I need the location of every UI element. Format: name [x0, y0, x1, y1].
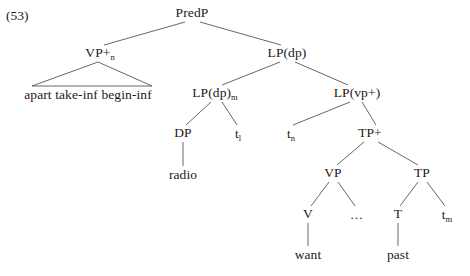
tree-node-lp_vp_plus: LP(vp+) — [334, 86, 381, 100]
tree-node-t: T — [394, 207, 402, 221]
tree-node-vp: VP — [324, 166, 341, 180]
tree-edge — [427, 182, 445, 206]
node-label: LP(dp) — [268, 45, 307, 60]
tree-edge — [104, 22, 185, 45]
tree-edge — [32, 62, 98, 86]
tree-edge — [98, 62, 152, 86]
tree-edge — [378, 142, 418, 165]
node-label: LP(dp) — [192, 85, 231, 100]
tree-edge — [362, 102, 376, 125]
node-subscript: n — [110, 52, 114, 62]
tree-edge — [186, 102, 211, 125]
node-label: LP(vp+) — [334, 85, 381, 100]
tree-edge — [295, 62, 348, 85]
node-label: VP — [324, 165, 341, 180]
node-label: PredP — [176, 5, 209, 20]
node-label: VP+ — [85, 45, 110, 60]
tree-node-trace_m: tm — [442, 208, 452, 221]
node-subscript: l — [239, 132, 241, 142]
tree-node-dp: DP — [174, 126, 191, 140]
tree-node-vp_terminal: apart take-inf begin-inf — [24, 88, 152, 102]
tree-node-trace_n: tn — [287, 127, 295, 140]
tree-edge — [338, 182, 355, 206]
node-label: DP — [174, 125, 191, 140]
tree-edge — [311, 182, 329, 206]
node-label: radio — [169, 167, 197, 182]
tree-node-lp_dp: LP(dp) — [268, 46, 307, 60]
tree-edge — [293, 102, 350, 125]
tree-node-v: V — [303, 207, 313, 221]
tree-node-want: want — [295, 248, 322, 262]
node-label: TP+ — [358, 125, 382, 140]
node-label: … — [350, 207, 364, 222]
tree-node-predp: PredP — [176, 6, 209, 20]
node-subscript: n — [291, 132, 295, 142]
tree-edge — [200, 22, 281, 45]
node-label: apart take-inf begin-inf — [24, 87, 152, 102]
tree-node-lp_dp_m: LP(dp)m — [192, 86, 237, 100]
node-subscript: m — [231, 92, 238, 102]
node-label: want — [295, 247, 322, 262]
node-subscript: m — [446, 213, 453, 223]
tree-edge — [337, 142, 364, 165]
tree-node-ellipsis: … — [350, 208, 364, 221]
node-label: T — [394, 206, 402, 221]
syntax-tree-figure: (53) PredPVP+nLP(dp)apart take-inf begin… — [0, 0, 470, 276]
tree-node-tp: TP — [414, 166, 430, 180]
tree-edge — [400, 182, 418, 206]
tree-node-radio: radio — [169, 168, 197, 182]
tree-node-past: past — [387, 248, 409, 262]
tree-node-vp_plus_n: VP+n — [85, 46, 114, 60]
node-label: V — [303, 206, 313, 221]
tree-edge — [222, 62, 280, 85]
node-label: TP — [414, 165, 430, 180]
tree-node-tp_plus: TP+ — [358, 126, 382, 140]
node-label: past — [387, 247, 409, 262]
tree-edge — [222, 102, 237, 125]
tree-node-trace_l: tl — [235, 127, 241, 140]
